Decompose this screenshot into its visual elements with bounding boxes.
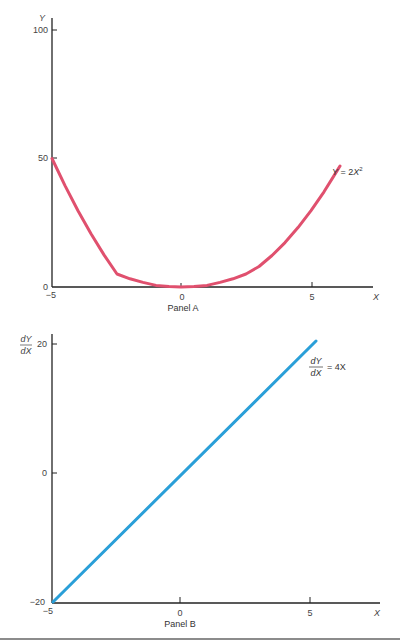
panel-a-curve-y-2x2: [52, 159, 304, 289]
panel-b-label: Panel B: [0, 619, 380, 629]
panel-b-equation: dY dX = 4X: [309, 356, 346, 378]
panel-b-equation-rhs: = 4X: [327, 362, 346, 372]
figure-canvas: 100 50 0 −5 0 5 Y X 20 0 −20 −5 0 5 dY: [0, 0, 400, 643]
panel-b: 20 0 −20 −5 0 5 dY dX X dY dX = 4X: [20, 334, 381, 618]
panel-a-equation-exponent: 2: [359, 166, 362, 172]
panel-b-equation-numerator: dY: [310, 356, 322, 366]
panel-a-parabola: [52, 159, 340, 288]
panel-a-equation: Y = 2X2: [332, 166, 363, 177]
panel-a-x-tick-label-0: 0: [179, 292, 184, 302]
panel-b-x-tick-label-neg5: −5: [43, 606, 53, 616]
panel-b-y-axis-name-denominator: dX: [20, 346, 32, 356]
panel-b-x-tick-label-5: 5: [307, 608, 312, 618]
panel-b-x-axis-name: X: [373, 608, 381, 618]
panel-a-x-axis-name: X: [372, 292, 380, 302]
panel-b-y-axis-name-numerator: dY: [20, 334, 32, 344]
panel-a-y-tick-label-100: 100: [33, 25, 48, 35]
panel-b-x-tick-label-0: 0: [177, 608, 182, 618]
panel-a: 100 50 0 −5 0 5 Y X: [33, 13, 380, 302]
panel-a-y-axis-name: Y: [39, 13, 46, 23]
panel-b-y-tick-label-20: 20: [37, 339, 47, 349]
panel-b-equation-denominator: dX: [310, 368, 322, 378]
panel-a-x-tick-label-5: 5: [309, 292, 314, 302]
panel-b-y-tick-label-0: 0: [42, 468, 47, 478]
panel-b-line-4x: [53, 341, 316, 602]
panel-a-y-tick-label-50: 50: [38, 153, 48, 163]
panel-a-x-tick-label-neg5: −5: [46, 290, 56, 300]
panel-b-y-axis-name: dY dX: [20, 334, 32, 356]
panel-a-label: Panel A: [0, 303, 383, 313]
panel-a-equation-eq: = 2: [338, 167, 353, 177]
